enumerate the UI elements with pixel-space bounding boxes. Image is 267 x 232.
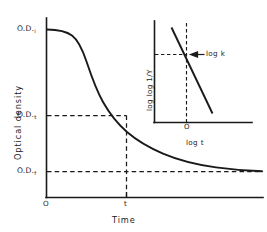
log-k-arrow-head	[191, 52, 198, 57]
inset-y-axis-title: log log 1/Y	[146, 69, 153, 111]
x-tick-label-origin: O	[43, 200, 49, 207]
y-tick-label-od-final: O.D.f	[17, 167, 36, 175]
od-initial-base: O.D.	[17, 24, 34, 33]
log-k-annotation: log k	[206, 50, 225, 57]
x-tick-label-t: t	[124, 200, 127, 207]
main-x-axis-title: Time	[112, 216, 136, 224]
y-tick-label-od-initial: O.D.i	[17, 25, 36, 33]
chart-canvas	[0, 0, 267, 232]
inset-x-tick-label-origin: O	[184, 124, 190, 131]
od-time-subscript: t	[34, 114, 36, 120]
od-final-base: O.D.	[17, 166, 34, 175]
figure-root: O.D.i O.D.t O.D.f Optical density O t Ti…	[0, 0, 267, 232]
inset-x-axis-title: log t	[186, 139, 204, 146]
main-y-axis-title: Optical density	[14, 85, 22, 160]
od-initial-subscript: i	[34, 28, 36, 34]
inset-regression-line	[172, 28, 213, 114]
